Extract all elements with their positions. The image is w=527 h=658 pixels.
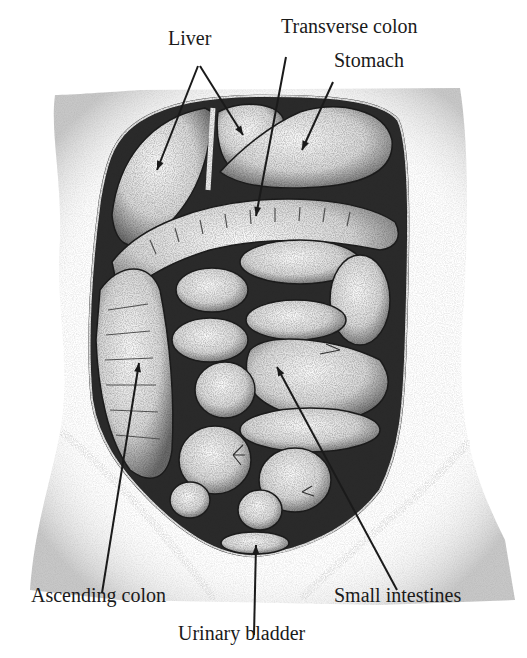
label-stomach: Stomach [334,50,404,70]
label-transverse-colon: Transverse colon [281,16,417,36]
abdomen-illustration [0,0,527,658]
label-small-intestines: Small intestines [334,585,461,605]
label-ascending-colon: Ascending colon [31,585,166,605]
label-urinary-bladder: Urinary bladder [178,623,305,643]
anatomy-diagram: Liver Transverse colon Stomach Ascending… [0,0,527,658]
label-liver: Liver [168,28,211,48]
